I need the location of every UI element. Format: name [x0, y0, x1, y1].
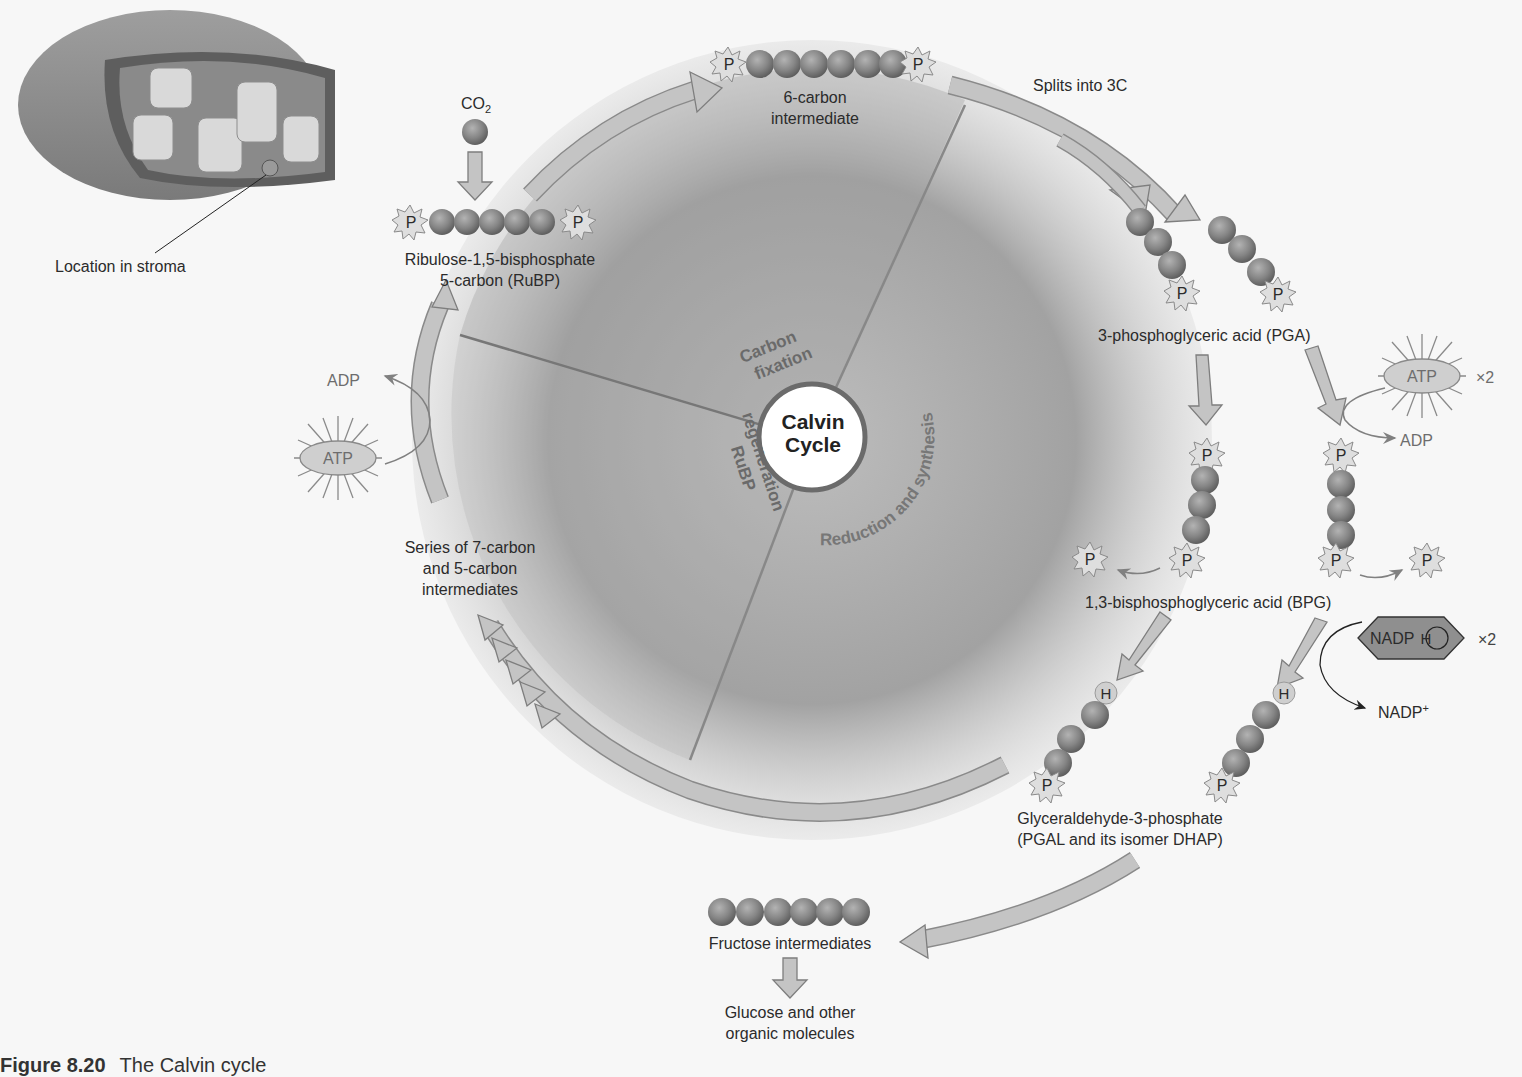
- pga-label: 3-phosphoglyceric acid (PGA): [1098, 325, 1311, 346]
- atp-left-label: ATP: [316, 448, 360, 469]
- phosphate-label: P: [568, 212, 588, 233]
- co2-label: CO2: [455, 93, 497, 120]
- co2-molecule: [462, 119, 488, 145]
- series-label-line2: and 5-carbon: [375, 558, 565, 579]
- chloroplast-illustration: [18, 10, 335, 253]
- title-line-2: Cycle: [764, 433, 862, 456]
- atp-left-icon: [294, 376, 430, 500]
- caption-number: Figure 8.20: [0, 1054, 106, 1076]
- splits-label: Splits into 3C: [1033, 75, 1127, 96]
- phosphate-label: P: [1080, 549, 1100, 570]
- hydrogen-label: H: [1096, 683, 1116, 704]
- six-carbon-label-line1: 6-carbon: [750, 87, 880, 108]
- calvin-cycle-title: Calvin Cycle: [764, 410, 862, 456]
- fructose-label: Fructose intermediates: [680, 933, 900, 954]
- phosphate-label: P: [1268, 284, 1288, 305]
- atp-multiplier: ×2: [1476, 367, 1494, 388]
- adp-left-label: ADP: [327, 370, 360, 391]
- title-line-1: Calvin: [764, 410, 862, 433]
- bpg-label: 1,3-bisphosphoglyceric acid (BPG): [1085, 592, 1331, 613]
- phosphate-label: P: [1037, 775, 1057, 796]
- series-label: Series of 7-carbon and 5-carbon intermed…: [375, 537, 565, 600]
- hydrogen-label: H: [1274, 683, 1294, 704]
- rubp-label: Ribulose-1,5-bisphosphate 5-carbon (RuBP…: [370, 249, 630, 291]
- adp-right-label: ADP: [1400, 430, 1433, 451]
- phosphate-label: P: [1326, 550, 1346, 571]
- glucose-label: Glucose and other organic molecules: [690, 1002, 890, 1044]
- nadph-multiplier: ×2: [1478, 629, 1496, 650]
- glucose-label-line2: organic molecules: [690, 1023, 890, 1044]
- phosphate-label: P: [1177, 550, 1197, 571]
- atp-right-label: ATP: [1400, 366, 1444, 387]
- series-label-line1: Series of 7-carbon: [375, 537, 565, 558]
- nadp-plus-label: NADP+: [1378, 698, 1429, 723]
- phosphate-label: P: [1331, 445, 1351, 466]
- phosphate-label: P: [719, 54, 739, 75]
- nadph-label: NADPH: [1370, 628, 1431, 649]
- phosphate-label: P: [1197, 445, 1217, 466]
- phosphate-label: P: [908, 54, 928, 75]
- phosphate-label: P: [1212, 775, 1232, 796]
- phosphate-label: P: [401, 212, 421, 233]
- pgal-label: Glyceraldehyde-3-phosphate (PGAL and its…: [980, 808, 1260, 850]
- six-carbon-label-line2: intermediate: [750, 108, 880, 129]
- phosphate-label: P: [1172, 283, 1192, 304]
- pgal-label-line1: Glyceraldehyde-3-phosphate: [980, 808, 1260, 829]
- figure-caption: Figure 8.20The Calvin cycle: [0, 1054, 266, 1077]
- rubp-label-line1: Ribulose-1,5-bisphosphate: [370, 249, 630, 270]
- six-carbon-label: 6-carbon intermediate: [750, 87, 880, 129]
- fructose-molecule: [708, 898, 870, 926]
- pgal-label-line2: (PGAL and its isomer DHAP): [980, 829, 1260, 850]
- caption-text: The Calvin cycle: [120, 1054, 267, 1076]
- rubp-label-line2: 5-carbon (RuBP): [370, 270, 630, 291]
- glucose-label-line1: Glucose and other: [690, 1002, 890, 1023]
- series-label-line3: intermediates: [375, 579, 565, 600]
- phosphate-label: P: [1417, 550, 1437, 571]
- stroma-location-label: Location in stroma: [55, 256, 186, 277]
